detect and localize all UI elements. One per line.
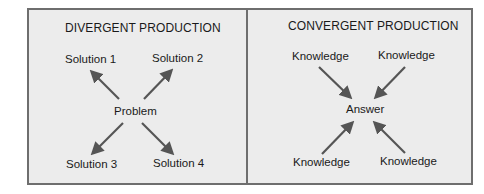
arrow-to-solution-1 [92, 72, 119, 99]
solution-1-label: Solution 1 [65, 53, 116, 65]
knowledge-4-label: Knowledge [380, 155, 437, 167]
knowledge-1-label: Knowledge [292, 50, 349, 62]
arrow-to-solution-3 [93, 123, 123, 153]
arrow-to-solution-4 [142, 123, 172, 153]
arrow-to-solution-2 [144, 71, 171, 99]
knowledge-2-label: Knowledge [378, 49, 435, 61]
arrow-from-knowledge-4 [375, 123, 405, 153]
knowledge-3-label: Knowledge [293, 156, 350, 168]
solution-4-label: Solution 4 [153, 157, 204, 169]
arrow-from-knowledge-2 [376, 67, 405, 97]
arrow-from-knowledge-1 [319, 67, 350, 97]
solution-2-label: Solution 2 [152, 52, 203, 64]
arrow-from-knowledge-3 [322, 123, 352, 154]
answer-label: Answer [346, 103, 384, 115]
divergent-title: DIVERGENT PRODUCTION [65, 21, 221, 35]
solution-3-label: Solution 3 [66, 158, 117, 170]
convergent-title: CONVERGENT PRODUCTION [288, 19, 459, 33]
problem-label: Problem [114, 105, 157, 117]
